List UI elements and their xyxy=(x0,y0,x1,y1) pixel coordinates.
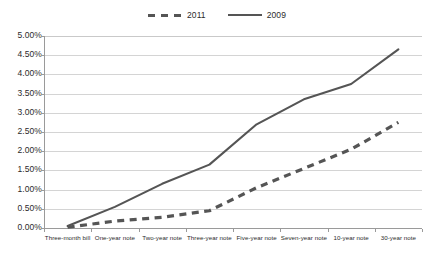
y-tick-label: 4.00% xyxy=(2,69,42,78)
y-tick-label: 3.50% xyxy=(2,89,42,98)
line-chart: 2011 2009 5.00%4.50%4.00%3.50%3.00%2.50%… xyxy=(0,0,434,256)
y-axis: 5.00%4.50%4.00%3.50%3.00%2.50%2.00%1.50%… xyxy=(0,0,42,256)
x-axis: Three-month billOne-year noteTwo-year no… xyxy=(44,229,422,251)
x-tick-label: Seven-year note xyxy=(280,234,327,242)
x-tick-label: Three-month bill xyxy=(44,234,91,242)
solid-line-swatch-icon xyxy=(228,14,262,16)
dashed-line-swatch-icon xyxy=(148,14,182,17)
x-tick-mark xyxy=(186,229,187,232)
x-tick-label: One-year note xyxy=(91,234,138,242)
x-tick-label: Five-year note xyxy=(233,234,280,242)
x-tick-mark xyxy=(280,229,281,232)
series-line-2011 xyxy=(68,122,399,227)
x-tick-mark xyxy=(422,229,423,232)
legend-label-2011: 2011 xyxy=(187,10,206,20)
y-tick-label: 2.50% xyxy=(2,127,42,136)
legend-item-2009[interactable]: 2009 xyxy=(228,10,286,20)
plot-area xyxy=(44,36,422,228)
x-tick-label: Two-year note xyxy=(139,234,186,242)
y-tick-label: 2.00% xyxy=(2,146,42,155)
y-tick-label: 0.50% xyxy=(2,204,42,213)
series-lines xyxy=(44,36,422,228)
legend-item-2011[interactable]: 2011 xyxy=(148,10,206,20)
x-tick-mark xyxy=(91,229,92,232)
y-tick-label: 3.00% xyxy=(2,108,42,117)
y-tick-label: 1.50% xyxy=(2,165,42,174)
x-tick-mark xyxy=(44,229,45,232)
x-tick-mark xyxy=(233,229,234,232)
y-tick-label: 5.00% xyxy=(2,31,42,40)
x-tick-label: 10-year note xyxy=(328,234,375,242)
x-tick-label: Three-year note xyxy=(186,234,233,242)
legend-label-2009: 2009 xyxy=(267,10,286,20)
x-tick-mark xyxy=(328,229,329,232)
y-tick-label: 1.00% xyxy=(2,185,42,194)
y-tick-label: 0.00% xyxy=(2,223,42,232)
chart-legend: 2011 2009 xyxy=(0,7,434,23)
y-tick-label: 4.50% xyxy=(2,50,42,59)
x-tick-mark xyxy=(139,229,140,232)
x-tick-mark xyxy=(375,229,376,232)
x-tick-label: 30-year note xyxy=(375,234,422,242)
